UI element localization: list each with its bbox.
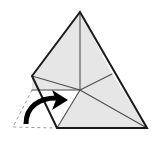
fold-diagram-canvas: [0, 0, 158, 142]
fold-diagram-figure: [0, 0, 158, 142]
